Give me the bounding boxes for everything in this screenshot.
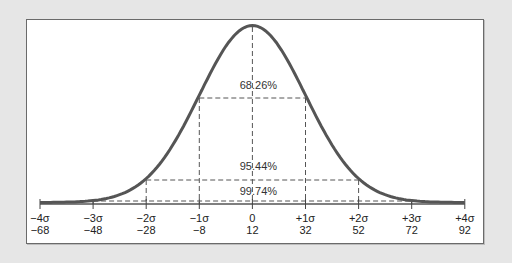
sigma-label: +1σ: [286, 212, 326, 224]
value-label: −28: [126, 224, 166, 236]
value-label: −8: [179, 224, 219, 236]
x-tick-label: −2σ−28: [126, 212, 166, 236]
x-tick-label: +4σ92: [445, 212, 485, 236]
value-label: −48: [73, 224, 113, 236]
x-tick-label: 012: [232, 212, 272, 236]
sigma-label: −2σ: [126, 212, 166, 224]
percentage-label: 68.26%: [228, 79, 288, 91]
sigma-label: +4σ: [445, 212, 485, 224]
x-tick-label: +3σ72: [392, 212, 432, 236]
sigma-label: 0: [232, 212, 272, 224]
percentage-label: 99.74%: [228, 185, 288, 197]
x-tick-label: +2σ52: [339, 212, 379, 236]
sigma-label: −4σ: [20, 212, 60, 224]
sigma-label: −1σ: [179, 212, 219, 224]
percentage-label: 95.44%: [228, 160, 288, 172]
x-tick-label: −1σ−8: [179, 212, 219, 236]
value-label: 32: [286, 224, 326, 236]
x-tick-label: −4σ−68: [20, 212, 60, 236]
sigma-label: +2σ: [339, 212, 379, 224]
value-label: 72: [392, 224, 432, 236]
x-tick-label: +1σ32: [286, 212, 326, 236]
value-label: 52: [339, 224, 379, 236]
value-label: −68: [20, 224, 60, 236]
value-label: 12: [232, 224, 272, 236]
sigma-label: −3σ: [73, 212, 113, 224]
value-label: 92: [445, 224, 485, 236]
sigma-label: +3σ: [392, 212, 432, 224]
sigma-range-dashed-lines: [93, 27, 412, 204]
x-tick-label: −3σ−48: [73, 212, 113, 236]
